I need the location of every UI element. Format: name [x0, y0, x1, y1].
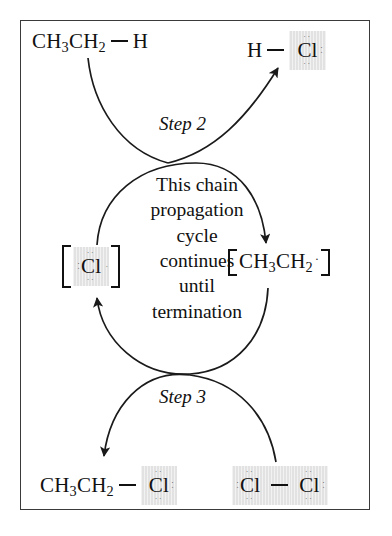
lone-pair-bottom-icon: ··: [87, 276, 96, 284]
center-text-line-4: continues: [113, 248, 281, 273]
lone-pair-top-icon: ··: [303, 33, 312, 41]
species-chloroethane: CH3CH2··Cl····: [40, 466, 177, 505]
center-text-line-2: propagation: [113, 197, 281, 222]
bond-line: [111, 40, 128, 42]
chlorine-radical-highlight: ····Cl···: [73, 247, 109, 286]
lone-pair-bottom-icon: ··: [246, 495, 255, 503]
lone-pair-right-icon: ··: [168, 481, 176, 490]
bond-line: [271, 484, 288, 486]
ethane-hydrogen-label: H: [133, 29, 148, 53]
radical-dot-icon: ·: [315, 251, 320, 266]
center-text-line-3: cycle: [113, 223, 281, 248]
lone-pair-right-icon: ··: [317, 46, 325, 55]
lone-pair-bottom-icon: ··: [155, 495, 164, 503]
chlorine-radical-brackets: ····Cl···: [62, 245, 120, 288]
chloroethane-chlorine-highlight: ··Cl····: [141, 466, 177, 505]
lone-pair-bottom-icon: ··: [303, 60, 312, 68]
cl2-bond-highlight: [268, 466, 291, 505]
center-explanation-text: This chain propagation cycle continues u…: [113, 172, 281, 324]
lone-pair-top-icon: ··: [155, 468, 164, 476]
cl2-right-chlorine-highlight: ··Cl····: [291, 466, 327, 505]
lone-pair-top-icon: ··: [87, 249, 96, 257]
ethane-alkyl-label: CH3CH2: [32, 29, 106, 53]
center-text-line-5: until: [113, 273, 281, 298]
step-3-label: Step 3: [159, 386, 206, 408]
species-chlorine-molecule: ····Cl····Cl····: [232, 466, 328, 505]
center-text-line-6: termination: [113, 299, 281, 324]
lone-pair-left-icon: ··: [74, 262, 82, 271]
lone-pair-top-icon: ··: [246, 468, 255, 476]
hcl-chlorine-highlight: ··Cl····: [289, 31, 325, 70]
lone-pair-bottom-icon: ··: [305, 495, 314, 503]
diagram-canvas: Step 2 Step 3 CH3CH2H H··Cl···· ····Cl··…: [0, 0, 392, 536]
bond-line: [119, 484, 136, 486]
cl2-left-chlorine-highlight: ····Cl··: [232, 466, 268, 505]
lone-pair-left-icon: ··: [233, 481, 241, 490]
step-2-label: Step 2: [159, 113, 206, 135]
center-text-line-1: This chain: [113, 172, 281, 197]
radical-dot-icon: ·: [106, 263, 109, 271]
hcl-hydrogen-label: H: [247, 38, 262, 62]
species-hydrogen-chloride: H··Cl····: [247, 31, 326, 70]
species-chlorine-radical: ····Cl···: [62, 245, 120, 288]
lone-pair-right-icon: ··: [319, 481, 327, 490]
lone-pair-top-icon: ··: [305, 468, 314, 476]
species-ethane: CH3CH2H: [32, 31, 148, 54]
bond-line: [267, 49, 284, 51]
chloroethane-alkyl-label: CH3CH2: [40, 473, 114, 497]
